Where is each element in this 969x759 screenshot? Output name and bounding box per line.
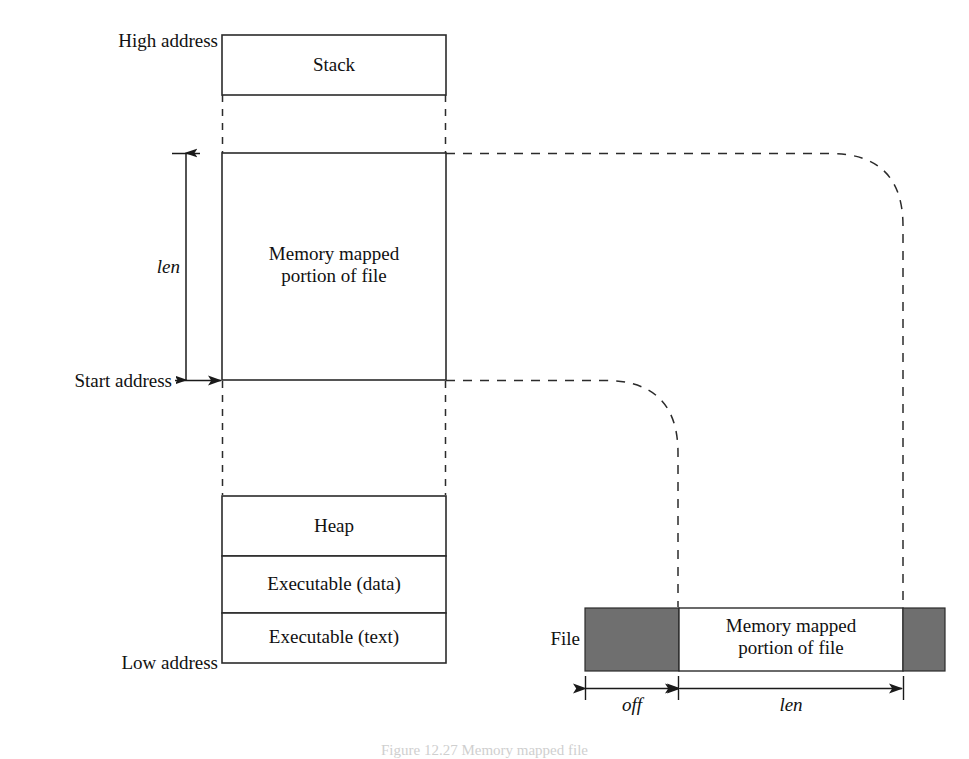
executable-data-label: Executable (data): [267, 573, 400, 595]
memory-mapped-region-label: Memory mapped portion of file: [269, 243, 399, 287]
lower-correspondence-dashed-line: [446, 381, 678, 608]
low-address-label: Low address: [121, 652, 218, 674]
executable-text-label: Executable (text): [269, 626, 399, 648]
figure-caption: Figure 12.27 Memory mapped file: [0, 742, 969, 759]
file-mapped-portion-label: Memory mapped portion of file: [726, 615, 856, 659]
mapped-to-heap-dashed-connector: [223, 381, 446, 495]
len-label-horizontal: len: [779, 694, 802, 716]
high-address-label: High address: [118, 30, 218, 52]
stack-to-mapped-dashed-connector: [223, 95, 446, 153]
heap-label: Heap: [314, 515, 354, 537]
file-bar-tail-segment: [903, 608, 945, 671]
start-address-label: Start address: [74, 370, 172, 392]
file-label: File: [550, 628, 580, 650]
file-bar-offset-segment: [585, 608, 679, 671]
file-mapped-portion-label-line1: Memory mapped: [726, 615, 856, 637]
stack-label: Stack: [313, 54, 355, 76]
file-mapped-portion-label-line2: portion of file: [726, 637, 856, 659]
len-label-vertical: len: [157, 256, 180, 278]
memory-mapped-region-label-line2: portion of file: [269, 265, 399, 287]
memory-mapped-region-label-line1: Memory mapped: [269, 243, 399, 265]
off-label: off: [622, 694, 642, 716]
